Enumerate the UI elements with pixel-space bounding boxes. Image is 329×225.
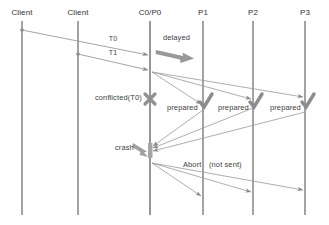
annotation-conflicted-t0: conflicted(T0) (95, 93, 142, 102)
participant-label-client1: Client (11, 8, 32, 17)
message-arrow-prepare-p1 (152, 72, 201, 104)
message-arrow-t1 (78, 54, 148, 70)
message-arrow-prepare-p2 (152, 72, 251, 99)
delayed-thick-arrow (156, 50, 195, 63)
annotation-abort: Abort (183, 160, 201, 169)
annotation-prepared-p1: prepared (167, 103, 198, 112)
client-request-arrows (20, 28, 148, 70)
message-arrow-t0 (22, 30, 148, 55)
prepare-arrows (152, 72, 303, 104)
message-label-t1: T1 (109, 49, 117, 56)
message-arrow-prepare-p3 (152, 72, 303, 97)
participant-label-p3: P3 (300, 8, 310, 17)
lifelines-group (22, 21, 305, 215)
participant-label-client2: Client (67, 8, 88, 17)
annotation-prepared-p3: prepared (270, 103, 301, 112)
annotation-delayed: delayed (163, 33, 190, 42)
annotation-prepared-p2: prepared (218, 103, 249, 112)
annotation-not-sent: (not sent) (209, 160, 242, 169)
participant-label-p2: P2 (248, 8, 258, 17)
crash-arrow-marker (132, 143, 148, 157)
check-mark-p1 (200, 94, 212, 107)
participant-label-p1: P1 (198, 8, 208, 17)
sequence-diagram-canvas: Client Client C0/P0 P1 P2 P3 T0 T1 delay… (0, 0, 329, 225)
origin-dot-t1 (76, 52, 80, 56)
prepared-ack-arrows (153, 108, 305, 151)
check-mark-p3 (302, 94, 314, 107)
origin-dot-t0 (20, 28, 24, 32)
check-mark-p2 (250, 94, 262, 107)
participant-label-c0p0: C0/P0 (139, 8, 162, 17)
message-label-t0: T0 (109, 35, 117, 42)
annotation-crash: crash (115, 143, 134, 152)
activation-bar (148, 143, 153, 158)
message-arrow-ack-p1 (153, 110, 203, 146)
